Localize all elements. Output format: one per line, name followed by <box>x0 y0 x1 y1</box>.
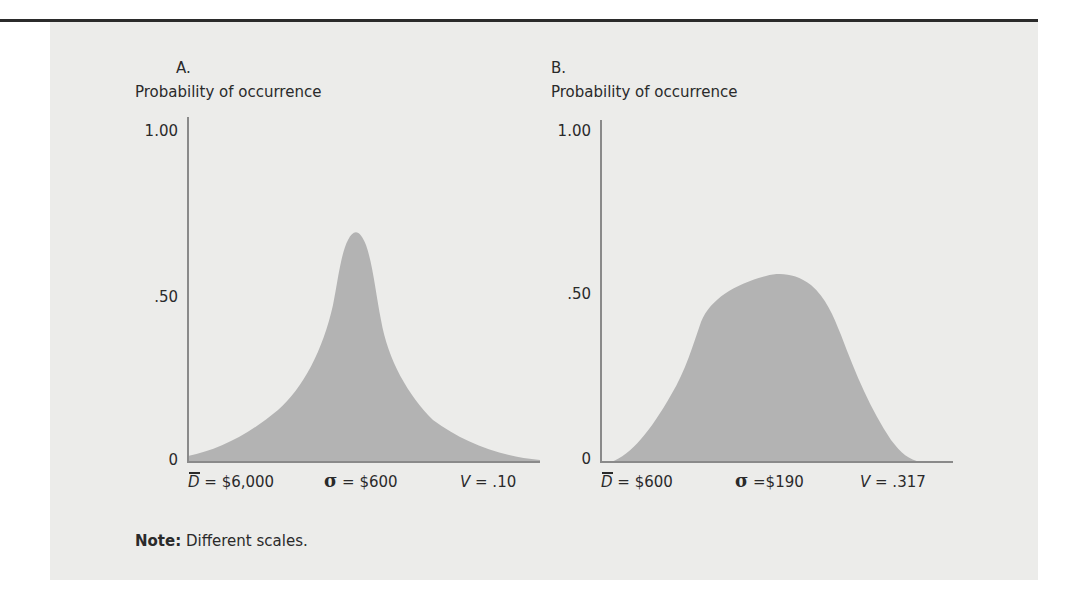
note-text: Different scales. <box>186 532 308 550</box>
chart-b-sd: σ =$190 <box>735 472 804 491</box>
chart-a-cv-value: = .10 <box>470 473 516 491</box>
chart-b-stats: D = $600 <box>601 473 673 491</box>
chart-a-tick-top: 1.00 <box>138 122 178 140</box>
chart-a-stats: D = $6,000 <box>188 473 274 491</box>
chart-a-v-symbol: V <box>460 473 470 491</box>
figure-note: Note: Different scales. <box>135 532 308 550</box>
chart-b-distribution-area <box>601 270 955 464</box>
chart-b-cv: V = .317 <box>860 473 926 491</box>
chart-b-ylabel: Probability of occurrence <box>551 83 737 101</box>
chart-b-mean-value: = $600 <box>613 473 673 491</box>
chart-b-v-symbol: V <box>860 473 870 491</box>
chart-a-sigma-symbol: σ <box>324 470 337 491</box>
chart-a-mean-value: = $6,000 <box>200 473 275 491</box>
chart-b-mean-symbol: D <box>601 473 613 491</box>
chart-b-tick-mid: .50 <box>551 285 591 303</box>
chart-b-tick-top: 1.00 <box>551 122 591 140</box>
chart-a-tick-zero: 0 <box>138 451 178 469</box>
chart-a-sd-value: = $600 <box>337 473 397 491</box>
chart-b-sd-value: =$190 <box>748 473 804 491</box>
chart-a-mean-symbol: D <box>188 473 200 491</box>
chart-a-x-axis <box>187 461 540 463</box>
chart-b-x-axis <box>600 461 953 463</box>
chart-b-tick-zero: 0 <box>551 450 591 468</box>
chart-a-ylabel: Probability of occurrence <box>135 83 321 101</box>
chart-a-tick-mid: .50 <box>138 288 178 306</box>
chart-a-distribution-area <box>188 220 540 464</box>
chart-b-y-axis <box>600 120 602 463</box>
chart-a-letter: A. <box>176 59 191 77</box>
chart-b-cv-value: = .317 <box>870 473 926 491</box>
chart-a-y-axis <box>187 117 189 463</box>
chart-b-sigma-symbol: σ <box>735 470 748 491</box>
chart-a-cv: V = .10 <box>460 473 516 491</box>
note-label: Note: <box>135 532 181 550</box>
chart-a-sd: σ = $600 <box>324 472 398 491</box>
chart-b-letter: B. <box>551 59 566 77</box>
